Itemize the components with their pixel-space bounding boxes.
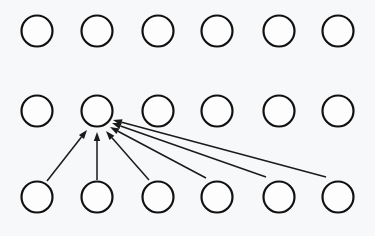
diagram-background [0, 0, 375, 236]
node-graph-svg [0, 0, 375, 236]
node-circle-b1[interactable] [22, 182, 53, 213]
node-circle-b5[interactable] [264, 182, 295, 213]
node-circle-t2[interactable] [82, 16, 113, 47]
node-circle-m4[interactable] [202, 96, 233, 127]
node-circle-m1[interactable] [22, 96, 53, 127]
diagram-canvas [0, 0, 375, 236]
node-circle-b2[interactable] [82, 182, 113, 213]
node-circle-t6[interactable] [323, 16, 354, 47]
node-circle-t4[interactable] [202, 16, 233, 47]
node-circle-b3[interactable] [143, 182, 174, 213]
node-circle-t5[interactable] [264, 16, 295, 47]
node-circle-t1[interactable] [22, 16, 53, 47]
node-circle-m3[interactable] [143, 96, 174, 127]
node-circle-m2[interactable] [82, 96, 113, 127]
node-circle-b4[interactable] [202, 182, 233, 213]
node-circle-m5[interactable] [264, 96, 295, 127]
node-circle-m6[interactable] [323, 96, 354, 127]
node-circle-b6[interactable] [323, 182, 354, 213]
node-circle-t3[interactable] [143, 16, 174, 47]
